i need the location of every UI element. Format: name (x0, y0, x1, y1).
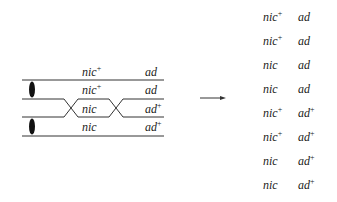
product-2-ad: ad (298, 35, 310, 47)
chromatid-4-nic: nic (82, 121, 97, 133)
product-6-ad: ad+ (298, 131, 315, 143)
centromere-2 (29, 119, 35, 135)
product-5-ad: ad+ (298, 107, 315, 119)
product-5-nic: nic+ (263, 107, 282, 119)
product-6-nic: nic+ (263, 131, 282, 143)
chromatid-4-ad: ad+ (145, 121, 162, 133)
product-2-nic: nic+ (263, 35, 282, 47)
product-7-nic: nic (263, 155, 278, 167)
product-8-ad: ad+ (298, 179, 315, 191)
chromatid-1-nic: nic+ (82, 66, 101, 78)
product-1-ad: ad (298, 11, 310, 23)
product-1-nic: nic+ (263, 11, 282, 23)
chromatid-diagram (0, 0, 337, 202)
chromatid-3-nic: nic (82, 103, 97, 115)
product-3-nic: nic (263, 59, 278, 71)
arrow-right-icon (200, 96, 226, 100)
chromatid-2-nic: nic+ (82, 84, 101, 96)
product-4-ad: ad (298, 83, 310, 95)
centromere-1 (29, 82, 35, 98)
chromatid-2-ad: ad (145, 84, 157, 96)
product-8-nic: nic (263, 179, 278, 191)
chromatid-3-ad: ad+ (145, 103, 162, 115)
chromatid-1-ad: ad (145, 66, 157, 78)
product-3-ad: ad (298, 59, 310, 71)
product-4-nic: nic (263, 83, 278, 95)
product-7-ad: ad+ (298, 155, 315, 167)
